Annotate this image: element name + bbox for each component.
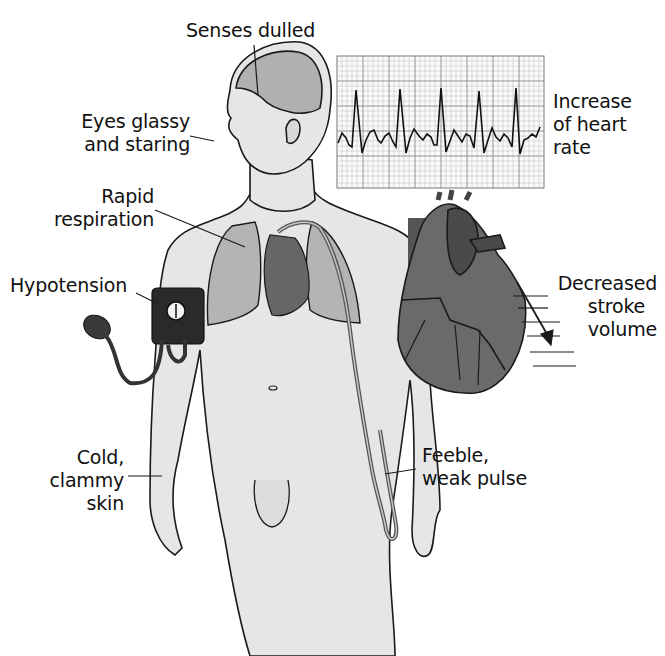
label-hypotension: Hypotension [10, 274, 127, 297]
label-line: weak pulse [422, 467, 527, 490]
label-line: respiration [40, 208, 154, 231]
label-cold-clammy-skin: Cold, clammy skin [30, 446, 124, 515]
label-weak-pulse: Feeble, weak pulse [422, 444, 527, 490]
label-line: Eyes glassy [72, 110, 190, 133]
label-line: rate [553, 136, 632, 159]
label-rapid-respiration: Rapid respiration [40, 185, 154, 231]
label-senses-dulled: Senses dulled [186, 19, 315, 42]
label-stroke-volume: Decreased stroke volume [540, 272, 657, 341]
label-line: clammy [30, 469, 124, 492]
label-line: stroke [540, 295, 657, 318]
label-eyes: Eyes glassy and staring [72, 110, 190, 156]
label-text: Hypotension [10, 274, 127, 296]
label-line: Cold, [30, 446, 124, 469]
label-line: and staring [72, 133, 190, 156]
label-line: Feeble, [422, 444, 527, 467]
label-line: Rapid [40, 185, 154, 208]
heart-illustration [398, 190, 526, 393]
label-heart-rate: Increase of heart rate [553, 90, 632, 159]
label-text: Senses dulled [186, 19, 315, 41]
label-line: volume [540, 318, 657, 341]
label-line: skin [30, 492, 124, 515]
label-line: of heart [553, 113, 632, 136]
ecg-strip [337, 56, 544, 188]
label-line: Increase [553, 90, 632, 113]
label-line: Decreased [540, 272, 657, 295]
